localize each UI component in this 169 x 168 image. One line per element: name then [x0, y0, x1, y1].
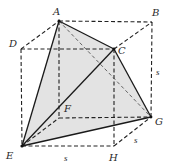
vertex-label-h: H — [108, 152, 118, 163]
cube-tetrahedron-diagram: A B C D E F G H s s s — [0, 0, 169, 168]
vertex-label-g: G — [155, 116, 163, 127]
vertex-label-e: E — [5, 150, 14, 161]
side-label-depth: s — [134, 135, 138, 145]
edge-DE — [21, 49, 22, 146]
edge-AB — [59, 21, 152, 22]
side-label-right: s — [156, 67, 160, 77]
vertex-label-f: F — [63, 103, 72, 114]
diagram-canvas: A B C D E F G H s s s — [0, 0, 169, 168]
vertex-dot-a — [58, 20, 61, 23]
vertex-label-b: B — [151, 7, 159, 18]
vertex-dot-g — [150, 116, 153, 119]
vertex-label-c: C — [118, 45, 126, 56]
edge-BG — [151, 22, 152, 117]
vertex-label-d: D — [8, 38, 17, 49]
vertex-dot-c — [113, 48, 116, 51]
side-label-bottom: s — [64, 153, 68, 163]
vertex-label-a: A — [52, 6, 60, 17]
vertex-dot-e — [20, 144, 23, 147]
